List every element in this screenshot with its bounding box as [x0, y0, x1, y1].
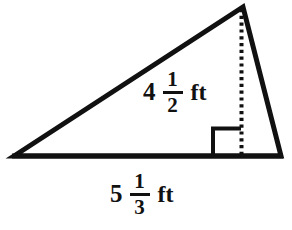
base-measurement-label: 5 1 3 ft [110, 170, 173, 218]
base-fraction: 1 3 [130, 171, 150, 219]
base-whole-number: 5 [110, 181, 123, 206]
height-fraction-numerator: 1 [165, 69, 180, 90]
height-unit: ft [191, 80, 207, 104]
height-measurement-label: 4 1 2 ft [143, 68, 206, 116]
triangle-diagram: 4 1 2 ft 5 1 3 ft [0, 0, 292, 230]
base-fraction-numerator: 1 [132, 171, 147, 192]
height-whole-number: 4 [143, 79, 156, 104]
base-unit: ft [158, 182, 174, 206]
height-fraction-denominator: 2 [165, 95, 180, 116]
base-fraction-denominator: 3 [132, 197, 147, 218]
height-fraction: 1 2 [163, 69, 183, 117]
